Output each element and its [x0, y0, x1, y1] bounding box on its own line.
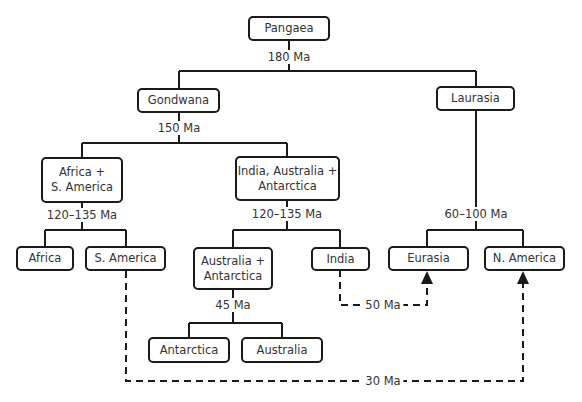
node-aus-ant: Australia + Antarctica: [193, 247, 273, 290]
samerica-to-namerica-dashed: [126, 271, 523, 381]
node-australia: Australia: [241, 337, 323, 363]
node-samerica: S. America: [85, 246, 166, 271]
node-india-aus-ant: India, Australia + Antarctica: [235, 156, 340, 201]
node-eurasia: Eurasia: [388, 246, 469, 271]
label-india-to-eurasia: 50 Ma: [362, 298, 403, 312]
arrowhead-eurasia-icon: [421, 271, 433, 284]
node-africa-samerica: Africa + S. America: [41, 157, 123, 203]
pangaea-breakup-diagram: Pangaea Gondwana Laurasia Africa + S. Am…: [0, 0, 582, 402]
node-namerica: N. America: [484, 246, 565, 271]
node-gondwana: Gondwana: [137, 88, 220, 113]
node-laurasia: Laurasia: [436, 86, 515, 111]
label-samerica-to-namerica: 30 Ma: [362, 374, 403, 388]
label-africa-samerica-split: 120–135 Ma: [44, 208, 120, 222]
arrowhead-namerica-icon: [517, 271, 529, 284]
node-antarctica: Antarctica: [148, 337, 230, 363]
node-pangaea: Pangaea: [248, 16, 330, 41]
label-india-aus-ant-split: 120–135 Ma: [249, 207, 325, 221]
node-africa: Africa: [16, 246, 74, 271]
label-laurasia-split: 60–100 Ma: [442, 207, 511, 221]
label-gondwana-split: 150 Ma: [155, 121, 204, 135]
label-aus-ant-split: 45 Ma: [212, 298, 253, 312]
node-india: India: [311, 247, 370, 271]
label-pangaea-split: 180 Ma: [265, 50, 314, 64]
